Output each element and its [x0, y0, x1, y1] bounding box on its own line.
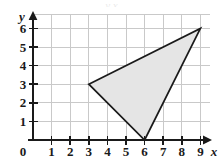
y-axis-arrow-icon	[29, 11, 38, 20]
x-tick-label: 6	[141, 144, 148, 159]
y-tick-label: 3	[20, 77, 27, 92]
y-tick-label: 5	[20, 40, 27, 55]
x-tick-label: 4	[104, 144, 111, 159]
x-tick-label: 8	[179, 144, 186, 159]
y-axis-label: y	[17, 9, 25, 24]
y-axis-tick-labels: 1 2 3 4 5 6	[20, 21, 27, 129]
y-tick-label: 2	[20, 95, 27, 110]
y-tick-label: 4	[20, 58, 27, 73]
x-tick-label: 7	[160, 144, 167, 159]
y-tick-label: 1	[20, 114, 27, 129]
x-axis-tick-labels: 1 2 3 4 5 6 7 8 9	[48, 144, 204, 159]
origin-label: 0	[20, 144, 27, 159]
coordinate-plot-svg: 1 2 3 4 5 6 7 8 9 1 2 3 4 5 6 0 y x	[0, 0, 223, 161]
x-tick-label: 2	[67, 144, 74, 159]
x-tick-label: 1	[48, 144, 55, 159]
coordinate-plane-figure: y x	[0, 0, 223, 161]
x-tick-label: 3	[86, 144, 93, 159]
x-axis-label: x	[210, 144, 218, 159]
x-tick-label: 9	[197, 144, 204, 159]
x-tick-label: 5	[123, 144, 130, 159]
